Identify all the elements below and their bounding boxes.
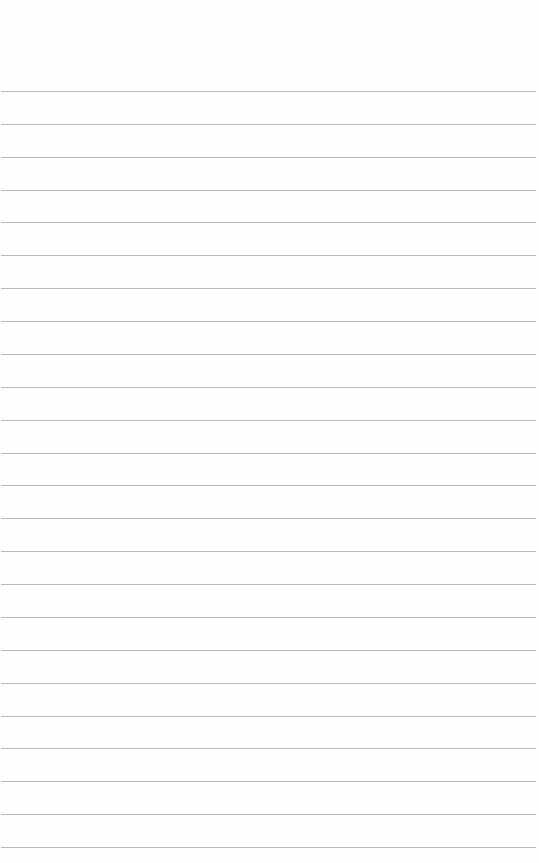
ruled-line	[1, 190, 536, 191]
ruled-line	[1, 781, 536, 782]
ruled-line	[1, 255, 536, 256]
ruled-line	[1, 650, 536, 651]
ruled-line	[1, 551, 536, 552]
ruled-line	[1, 321, 536, 322]
ruled-line	[1, 847, 536, 848]
ruled-line	[1, 157, 536, 158]
ruled-line	[1, 288, 536, 289]
lined-paper-sheet	[0, 0, 539, 863]
ruled-line	[1, 716, 536, 717]
ruled-line	[1, 748, 536, 749]
ruled-line	[1, 617, 536, 618]
ruled-line	[1, 485, 536, 486]
ruled-line	[1, 354, 536, 355]
ruled-line	[1, 91, 536, 92]
ruled-line	[1, 584, 536, 585]
ruled-line	[1, 518, 536, 519]
ruled-line	[1, 420, 536, 421]
ruled-line	[1, 683, 536, 684]
ruled-line	[1, 814, 536, 815]
ruled-line	[1, 222, 536, 223]
ruled-line	[1, 387, 536, 388]
ruled-line	[1, 124, 536, 125]
ruled-line	[1, 453, 536, 454]
